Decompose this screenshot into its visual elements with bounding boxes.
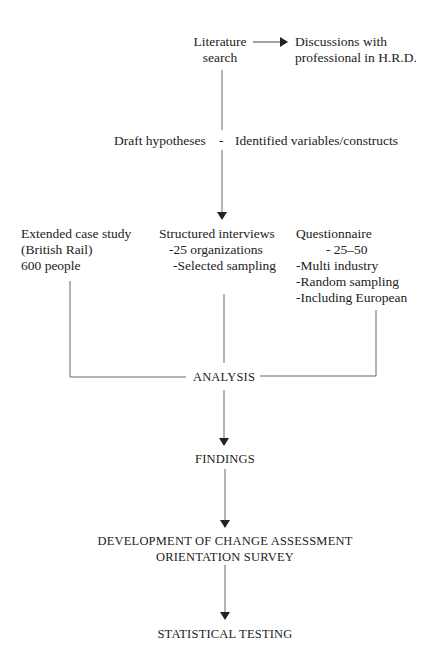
questionnaire-line5: -Including European [296, 290, 407, 306]
literature-line2: search [193, 50, 246, 66]
development-line1: DEVELOPMENT OF CHANGE ASSESSMENT [97, 533, 352, 549]
questionnaire-line4: -Random sampling [296, 274, 407, 290]
node-identified-variables: Identified variables/constructs [235, 133, 398, 149]
interviews-line1: Structured interviews [159, 226, 276, 242]
node-extended-case-study: Extended case study (British Rail) 600 p… [21, 226, 131, 274]
discussions-line2: professional in H.R.D. [295, 50, 417, 66]
node-literature-search: Literature search [193, 34, 246, 66]
node-findings: FINDINGS [195, 451, 255, 467]
development-line2: ORIENTATION SURVEY [97, 549, 352, 565]
questionnaire-line2: - 25–50 [296, 242, 407, 258]
questionnaire-line3: -Multi industry [296, 258, 407, 274]
discussions-line1: Discussions with [295, 34, 417, 50]
interviews-line3: -Selected sampling [159, 258, 276, 274]
node-analysis: ANALYSIS [193, 369, 255, 385]
node-statistical-testing: STATISTICAL TESTING [157, 626, 292, 642]
line-questionnaire-to-analysis [260, 310, 376, 376]
case-study-line1: Extended case study [21, 226, 131, 242]
case-study-line2: (British Rail) [21, 242, 131, 258]
interviews-line2: -25 organizations [159, 242, 276, 258]
node-draft-hypotheses: Draft hypotheses [114, 133, 206, 149]
node-development-survey: DEVELOPMENT OF CHANGE ASSESSMENT ORIENTA… [97, 533, 352, 565]
line-casestudy-to-analysis [70, 281, 186, 377]
node-questionnaire: Questionnaire - 25–50 -Multi industry -R… [296, 226, 407, 306]
literature-line1: Literature [193, 34, 246, 50]
node-structured-interviews: Structured interviews -25 organizations … [159, 226, 276, 274]
questionnaire-line1: Questionnaire [296, 226, 407, 242]
separator-dash: - [219, 133, 224, 149]
case-study-line3: 600 people [21, 258, 131, 274]
node-discussions: Discussions with professional in H.R.D. [295, 34, 417, 66]
